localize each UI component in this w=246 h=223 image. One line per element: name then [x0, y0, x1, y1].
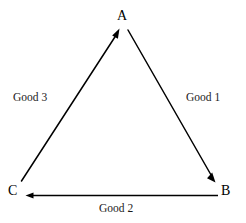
edge-good-1-arrowhead — [207, 173, 216, 183]
edge-label-good-3: Good 3 — [13, 91, 47, 103]
edge-good-2-arrowhead — [26, 192, 34, 198]
edge-good-3-arrow — [22, 29, 120, 182]
node-label-b: B — [221, 184, 230, 198]
edge-label-good-1: Good 1 — [186, 91, 220, 103]
edge-good-2-arrow — [26, 192, 219, 198]
node-label-c: C — [8, 184, 17, 198]
node-label-a: A — [117, 9, 127, 23]
edge-good-3-line — [22, 33, 118, 181]
edge-good-1-arrow — [128, 30, 216, 183]
edge-good-1-line — [128, 30, 213, 178]
triangular-trade-diagram: A B C Good 1 Good 2 Good 3 — [0, 0, 246, 223]
diagram-canvas — [0, 0, 246, 223]
edge-label-good-2: Good 2 — [99, 202, 133, 214]
edge-good-3-arrowhead — [112, 29, 119, 39]
